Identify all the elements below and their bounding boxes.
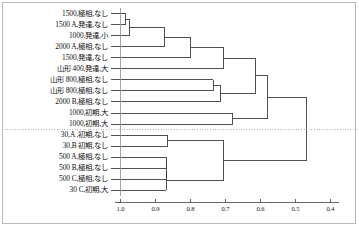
x-axis-tick-label: 0.8	[186, 206, 194, 213]
x-axis-tick-label: 0.5	[291, 206, 299, 213]
x-axis-tick-label: 1.0	[116, 206, 124, 213]
axis-tick-label-row: 1.00.90.80.70.60.50.4	[0, 0, 359, 227]
dendrogram-figure: 1500,極相,なし1500 A,発達,なし1000,発達,小2000 A,極相…	[0, 0, 359, 227]
x-axis-tick-label: 0.6	[256, 206, 264, 213]
x-axis-tick-label: 0.9	[151, 206, 159, 213]
x-axis-tick-label: 0.7	[221, 206, 229, 213]
x-axis-tick-label: 0.4	[326, 206, 334, 213]
